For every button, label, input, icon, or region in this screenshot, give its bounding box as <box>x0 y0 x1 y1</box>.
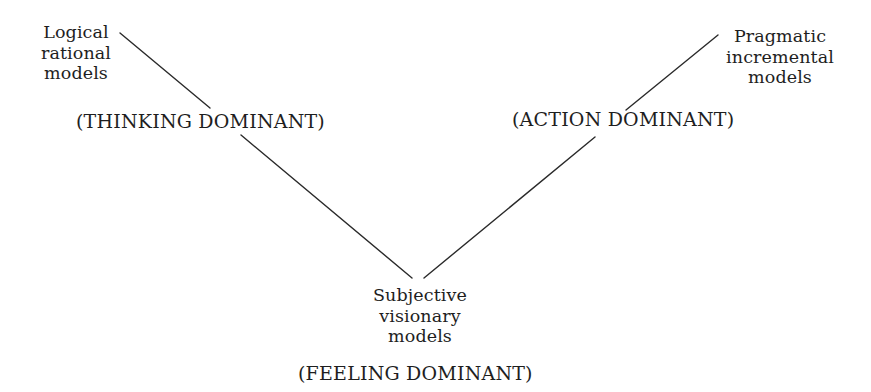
node-subjective-line-3: models <box>362 326 478 347</box>
node-subjective-line-2: visionary <box>362 306 478 327</box>
edge-logical-upper <box>120 33 210 108</box>
diagram-canvas: Logical rational models Pragmatic increm… <box>0 0 871 392</box>
action-dominant-label: (ACTION DOMINANT) <box>512 108 734 130</box>
node-pragmatic-incremental-models: Pragmatic incremental models <box>716 26 844 88</box>
node-logical-line-1: Logical <box>30 22 122 43</box>
node-pragmatic-line-3: models <box>716 67 844 88</box>
edge-pragmatic-upper <box>626 35 718 110</box>
thinking-dominant-label: (THINKING DOMINANT) <box>76 110 325 132</box>
node-logical-line-2: rational <box>30 43 122 64</box>
edge-pragmatic-lower <box>424 137 595 278</box>
node-pragmatic-line-1: Pragmatic <box>716 26 844 47</box>
node-logical-line-3: models <box>30 63 122 84</box>
node-subjective-line-1: Subjective <box>362 285 478 306</box>
feeling-dominant-label: (FEELING DOMINANT) <box>298 362 533 384</box>
node-logical-rational-models: Logical rational models <box>30 22 122 84</box>
edge-logical-lower <box>241 135 412 278</box>
node-pragmatic-line-2: incremental <box>716 47 844 68</box>
node-subjective-visionary-models: Subjective visionary models <box>362 285 478 347</box>
